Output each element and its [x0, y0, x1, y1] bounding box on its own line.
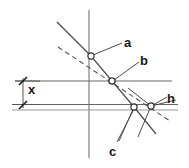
main-polyline-group: [57, 22, 156, 134]
label-x-dimension: x: [28, 83, 35, 96]
dimension-x-group: [12, 77, 40, 109]
leader-lines-group: [93, 43, 167, 142]
node-marker-b: [109, 78, 115, 84]
label-c: c: [109, 145, 116, 158]
solid-ray-upper-left: [57, 22, 91, 56]
solid-segment-a-to-b: [91, 56, 112, 81]
leader-line-a: [93, 43, 122, 55]
leader-line-c: [117, 109, 134, 142]
axes-group: [12, 10, 178, 158]
figure-container: a b h c x: [0, 0, 189, 168]
node-marker-h: [148, 103, 154, 109]
label-b: b: [140, 54, 148, 67]
label-a: a: [124, 36, 131, 49]
label-h: h: [167, 92, 175, 105]
spoke-h-down-left: [138, 106, 151, 137]
leader-line-b: [114, 62, 139, 80]
solid-segment-b-to-c: [112, 81, 134, 107]
node-marker-a: [88, 53, 94, 59]
node-marker-c: [131, 104, 137, 110]
